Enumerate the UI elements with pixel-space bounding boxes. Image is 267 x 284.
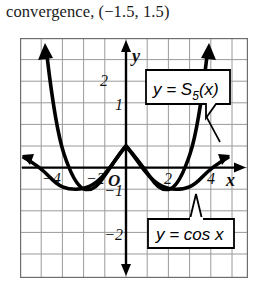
callout-cosine-tail-join bbox=[190, 217, 203, 221]
y-tick--2: −2 bbox=[104, 226, 123, 243]
callout-cosine-label: y = cos x bbox=[155, 225, 224, 244]
y-tick-1: 1 bbox=[115, 96, 123, 113]
origin-label: O bbox=[108, 171, 120, 190]
y-tick-2: 2 bbox=[100, 72, 108, 89]
figure-caption: convergence, (−1.5, 1.5) bbox=[6, 2, 261, 22]
y-axis-label: y bbox=[130, 46, 141, 66]
callout-taylor-prefix: y = S bbox=[152, 80, 193, 99]
x-tick-2: 2 bbox=[164, 170, 172, 187]
graph-figure: −4 −2 2 4 2 1 −1 −2 O y x y bbox=[20, 38, 248, 278]
callout-taylor-suffix: (x) bbox=[199, 80, 219, 99]
x-axis-label: x bbox=[225, 170, 235, 190]
